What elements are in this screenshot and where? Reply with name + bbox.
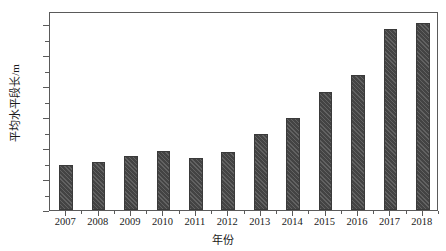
x-axis-minor-tick	[211, 211, 212, 214]
bar	[286, 118, 300, 210]
bar	[157, 151, 171, 210]
bar	[92, 162, 106, 210]
plot-area	[49, 12, 438, 211]
x-axis-minor-tick	[373, 211, 374, 214]
y-axis-tick	[43, 211, 49, 212]
bar	[59, 165, 73, 210]
x-axis-minor-tick	[276, 211, 277, 214]
x-axis-minor-tick	[406, 211, 407, 214]
bar	[124, 156, 138, 210]
x-axis-minor-tick	[114, 211, 115, 214]
x-axis-minor-tick	[341, 211, 342, 214]
y-axis-title: 平均水平段长/m	[6, 38, 22, 168]
x-axis-title: 年份	[0, 231, 446, 247]
bar	[319, 92, 333, 210]
x-axis-minor-tick	[81, 211, 82, 214]
x-axis-minor-tick	[244, 211, 245, 214]
x-axis-minor-tick	[179, 211, 180, 214]
x-axis-minor-tick	[146, 211, 147, 214]
bar	[351, 75, 365, 210]
bar-chart-figure: 平均水平段长/m 050010001500200025003000 200720…	[0, 0, 446, 251]
x-axis-tick-label: 2018	[402, 217, 442, 228]
bar	[221, 152, 235, 210]
bar	[416, 23, 430, 210]
bar	[254, 134, 268, 210]
bar	[384, 29, 398, 210]
x-axis-minor-tick	[308, 211, 309, 214]
bar	[189, 158, 203, 210]
bars-group	[50, 13, 437, 210]
x-axis-minor-tick	[438, 211, 439, 214]
